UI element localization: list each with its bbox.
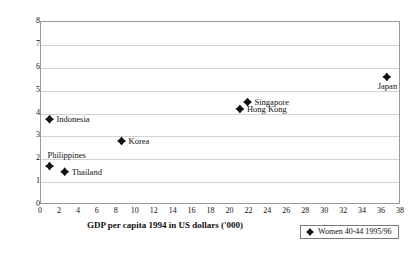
plot-area: IndonesiaPhilippinesThailandKoreaHong Ko… — [40, 21, 400, 204]
diamond-marker-icon — [45, 115, 54, 124]
diamond-marker-icon — [235, 104, 244, 113]
data-point-label: Japan — [378, 82, 397, 91]
legend-diamond-icon — [306, 228, 314, 236]
y-axis-title-container: Percent divorced in age group — [18, 21, 32, 204]
gridline — [41, 45, 399, 46]
diamond-marker-icon — [117, 136, 126, 145]
gridline — [41, 136, 399, 137]
data-point-label: Philippines — [48, 151, 86, 160]
gridline — [41, 182, 399, 183]
data-point-label: Indonesia — [57, 115, 90, 124]
data-point-label: Thailand — [72, 168, 102, 177]
gridline — [41, 114, 399, 115]
gridline — [41, 91, 399, 92]
chart-legend: Women 40-44 1995/96 — [300, 225, 399, 239]
x-axis-tick-label: 38 — [388, 207, 412, 215]
diamond-marker-icon — [60, 167, 69, 176]
gridline — [41, 68, 399, 69]
data-point-label: Singapore — [255, 98, 289, 107]
data-point-label: Korea — [129, 137, 150, 146]
gridline — [41, 159, 399, 160]
legend-label: Women 40-44 1995/96 — [318, 228, 392, 236]
x-axis-title: GDP per capita 1994 in US dollars ('000) — [40, 220, 290, 230]
diamond-marker-icon — [45, 162, 54, 171]
